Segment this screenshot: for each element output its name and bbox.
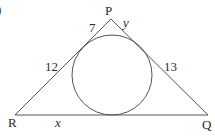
vertex-label-p: P bbox=[105, 3, 112, 18]
segment-label-r-bottom: x bbox=[54, 115, 61, 130]
incircle bbox=[72, 35, 152, 115]
triangle-pqr bbox=[15, 19, 208, 115]
segment-label-q-upper: 13 bbox=[164, 59, 177, 74]
triangle-incircle-diagram: ) P R Q 7 y 12 13 x bbox=[0, 0, 215, 138]
vertex-label-r: R bbox=[8, 115, 17, 130]
segment-label-p-right: y bbox=[121, 15, 129, 30]
vertex-label-q: Q bbox=[202, 117, 212, 132]
segment-label-p-left: 7 bbox=[89, 20, 96, 35]
partial-part-label: ) bbox=[0, 2, 1, 17]
segment-label-r-upper: 12 bbox=[45, 59, 58, 74]
